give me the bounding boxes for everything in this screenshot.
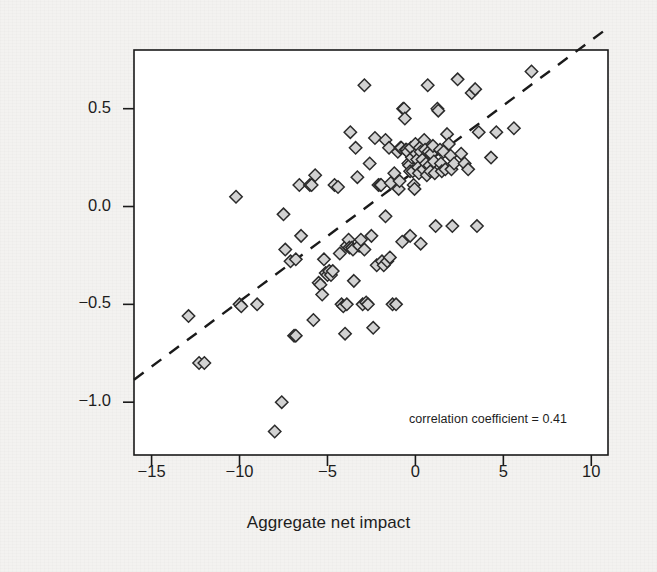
x-tick-label: −15 <box>122 462 182 481</box>
x-tick-label: 0 <box>385 462 445 481</box>
scatter-plot <box>0 0 657 572</box>
y-tick-label: 0.5 <box>51 98 111 117</box>
plot-frame <box>134 50 608 455</box>
y-tick-label: −0.5 <box>51 293 111 312</box>
x-tick-label: 5 <box>473 462 533 481</box>
correlation-annotation: correlation coefficient = 0.41 <box>409 412 567 426</box>
x-tick-label: −10 <box>210 462 270 481</box>
y-axis-ticks <box>123 109 134 402</box>
x-tick-label: −5 <box>297 462 357 481</box>
x-tick-label: 10 <box>561 462 621 481</box>
x-axis-title: Aggregate net impact <box>0 513 657 533</box>
figure-container: −15−10−50510 0.50.0−0.5−1.0 Aggregate ne… <box>0 0 657 572</box>
y-tick-label: −1.0 <box>51 391 111 410</box>
y-tick-label: 0.0 <box>51 196 111 215</box>
